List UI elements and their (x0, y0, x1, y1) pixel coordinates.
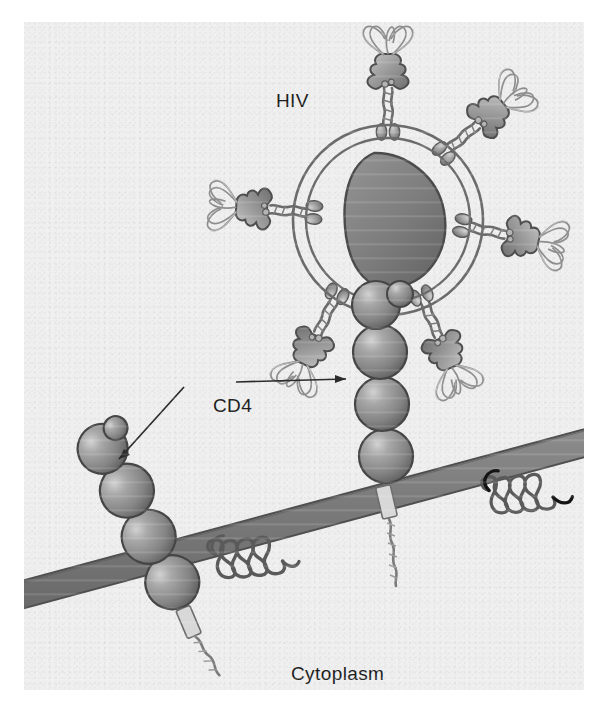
cd4-cytoplasmic-tail (195, 634, 219, 678)
diagram-canvas (24, 22, 584, 690)
cd4-transmembrane-segment (176, 605, 202, 638)
viral-capsid-core (344, 153, 445, 288)
envelope-spike-upper-right (421, 66, 542, 179)
label-cd4: CD4 (213, 395, 252, 417)
cd4-arrow-left (119, 387, 184, 459)
cd4-receptor-bound (352, 281, 413, 586)
cd4-domain (359, 429, 413, 483)
cd4-domain (353, 325, 407, 379)
cd4-domain (355, 377, 409, 431)
label-cytoplasm: Cytoplasm (291, 663, 384, 685)
cd4-binding-bud (387, 281, 413, 307)
envelope-spike-right (449, 199, 571, 273)
label-hiv: HIV (276, 90, 309, 112)
cd4-arrow-right (236, 375, 346, 383)
figure-hiv-cd4-binding: HIV CD4 Cytoplasm (0, 0, 609, 715)
envelope-spike-top (362, 26, 414, 140)
scan-plate: HIV CD4 Cytoplasm (24, 22, 584, 690)
